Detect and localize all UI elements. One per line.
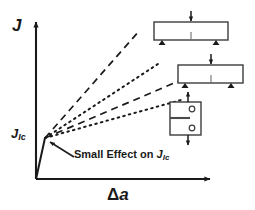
annotation-text-main: Small Effect on	[74, 148, 157, 160]
bend-bar-support-left	[159, 40, 166, 45]
annotation-arrow	[50, 142, 74, 157]
blunting-line	[36, 138, 45, 179]
ct-pin-hole-top	[189, 106, 195, 112]
inset-compact-tension-specimen	[170, 92, 201, 145]
y-axis-label: J	[12, 17, 21, 34]
x-axis-label: Δa	[107, 186, 129, 203]
inset-three-point-bend-shallow	[154, 11, 228, 45]
inset-three-point-bend-deep	[178, 54, 243, 88]
y-tick-label-jic: JIc	[11, 127, 26, 142]
annotation-jic-subscript: Ic	[163, 153, 170, 162]
bend-bar2-support-right	[228, 83, 235, 88]
r-curve-lowest-dotted	[45, 100, 181, 138]
figure-canvas	[0, 0, 255, 210]
bend-bar-support-right	[213, 40, 220, 45]
annotation-text: Small Effect on JIc	[74, 149, 169, 162]
bend-bar2-support-left	[182, 83, 189, 88]
r-curve-steepest-dashed	[45, 30, 140, 138]
j-r-curve-figure: J Δa JIc Small Effect on JIc	[0, 0, 255, 210]
r-curve-lower-dashed	[45, 81, 179, 138]
ct-pin-hole-bottom	[189, 125, 195, 131]
y-tick-label-subscript: Ic	[18, 132, 26, 142]
r-curve-upper-dotted	[45, 62, 161, 138]
x-axis-label-delta: Δ	[107, 185, 119, 204]
x-axis-label-a: a	[119, 185, 128, 204]
